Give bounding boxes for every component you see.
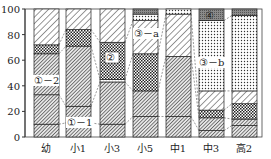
bar-segment: [34, 95, 59, 124]
bar-segment: [166, 14, 191, 56]
annotation-1-1: ①－1: [67, 117, 92, 128]
bar-segment: [232, 119, 257, 125]
bar-segment: [34, 9, 59, 45]
ytick-60: 60: [7, 55, 20, 66]
xtick-5: 中3: [203, 142, 219, 154]
bar-segment: [166, 9, 191, 14]
annotations: ①－2 ①－1 ② ③－a ③－b ④: [33, 10, 225, 128]
bar-segment: [232, 9, 257, 15]
ytick-100: 100: [1, 4, 20, 15]
bar-segment: [199, 91, 224, 110]
xtick-0: 幼: [41, 142, 51, 154]
ytick-40: 40: [7, 81, 20, 92]
xtick-4: 中1: [170, 142, 186, 154]
bar-segment: [100, 79, 125, 82]
bar-segment: [133, 117, 158, 137]
bar-segment: [166, 56, 191, 116]
bar-segment: [34, 124, 59, 137]
xtick-6: 高2: [236, 142, 252, 154]
annotation-3-a: ③－a: [134, 28, 159, 39]
bar-segment: [232, 125, 257, 137]
stacked-bar-chart: 0 20 40 60 80 100 幼 小1 小3 小5 中1 中3 高2 ①－…: [0, 0, 271, 159]
bar-segment: [133, 54, 158, 91]
bar-segment: [166, 117, 191, 137]
bar-segment: [34, 45, 59, 54]
bar-高2: [232, 9, 257, 137]
annotation-4: ④: [205, 10, 214, 21]
xtick-3: 小5: [137, 143, 153, 154]
bar-segment: [66, 46, 91, 106]
bar-segment: [199, 21, 224, 91]
annotation-1-2: ①－2: [34, 75, 59, 86]
annotation-2: ②: [106, 52, 115, 63]
bar-segment: [133, 91, 158, 117]
annotation-3-b: ③－b: [199, 57, 224, 68]
bar-segment: [100, 9, 125, 42]
bar-segment: [199, 110, 224, 118]
bar-segment: [199, 118, 224, 131]
y-tick-labels: 0 20 40 60 80 100: [1, 4, 20, 143]
bar-segment: [232, 15, 257, 91]
bar-segment: [133, 9, 158, 14]
bar-segment: [100, 124, 125, 137]
xtick-1: 小1: [70, 143, 86, 154]
bar-segment: [100, 82, 125, 124]
x-tick-labels: 幼 小1 小3 小5 中1 中3 高2: [41, 142, 252, 154]
bar-segment: [66, 29, 91, 46]
bar-segment: [66, 9, 91, 29]
ytick-20: 20: [7, 106, 20, 117]
xtick-2: 小3: [104, 143, 120, 154]
bar-中3: [199, 9, 224, 137]
bar-小3: [100, 9, 125, 137]
bar-segment: [232, 91, 257, 104]
bar-幼: [34, 9, 59, 137]
bar-segment: [232, 104, 257, 119]
bar-segment: [199, 131, 224, 137]
ytick-80: 80: [7, 30, 20, 41]
bar-segment: [133, 14, 158, 20]
ytick-0: 0: [14, 132, 20, 143]
bar-中1: [166, 9, 191, 137]
